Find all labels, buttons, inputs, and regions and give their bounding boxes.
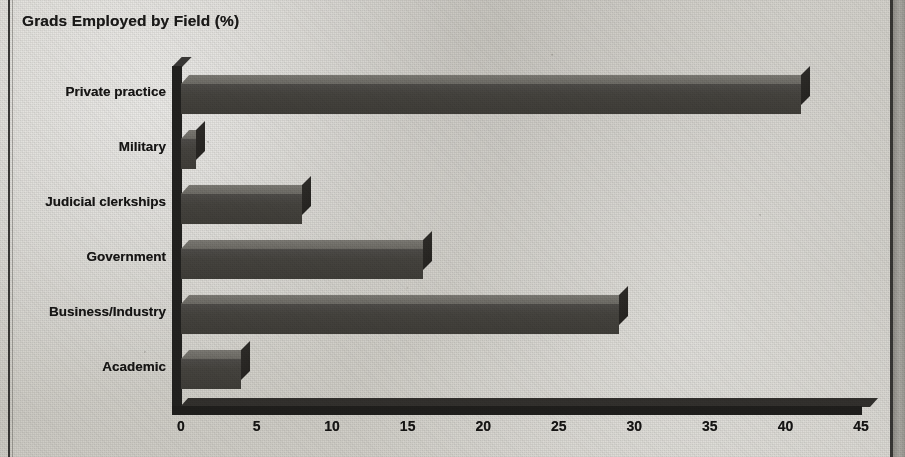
bar-government [181,240,423,270]
bar-front-face [181,249,423,279]
x-tick-15: 15 [400,418,416,434]
x-tick-45: 45 [853,418,869,434]
bar-side-face [241,341,250,380]
x-tick-40: 40 [778,418,794,434]
x-axis-front-face [172,406,862,415]
bar-front-face [181,304,619,334]
bar-side-face [423,231,432,270]
y-axis-label-academic: Academic [102,359,166,374]
bar-front-face [181,84,801,114]
bar-side-face [302,176,311,215]
chart-plot-area: Private practice Military Judicial clerk… [0,0,905,457]
x-tick-30: 30 [627,418,643,434]
x-tick-35: 35 [702,418,718,434]
y-axis-label-government: Government [86,249,166,264]
bar-side-face [619,286,628,325]
bar-top-face [181,295,627,304]
bar-business-industry [181,295,619,325]
bar-front-face [181,194,302,224]
bar-private-practice [181,75,801,105]
bar-top-face [181,75,809,84]
bar-judicial-clerkships [181,185,302,215]
bar-side-face [801,66,810,105]
bar-side-face [196,121,205,160]
y-axis-label-business-industry: Business/Industry [49,304,166,319]
x-tick-0: 0 [177,418,185,434]
bar-military [181,130,196,160]
bar-top-face [181,185,310,194]
y-axis-label-private-practice: Private practice [65,84,166,99]
bar-front-face [181,139,196,169]
bar-academic [181,350,241,380]
bar-front-face [181,359,241,389]
bar-top-face [181,240,431,249]
x-tick-5: 5 [253,418,261,434]
y-axis-label-military: Military [119,139,166,154]
x-tick-10: 10 [324,418,340,434]
x-tick-20: 20 [475,418,491,434]
y-axis-label-judicial-clerkships: Judicial clerkships [45,194,166,209]
newsprint-chart-scan: Grads Employed by Field (%) [0,0,905,457]
bar-top-face [181,350,250,359]
x-tick-25: 25 [551,418,567,434]
